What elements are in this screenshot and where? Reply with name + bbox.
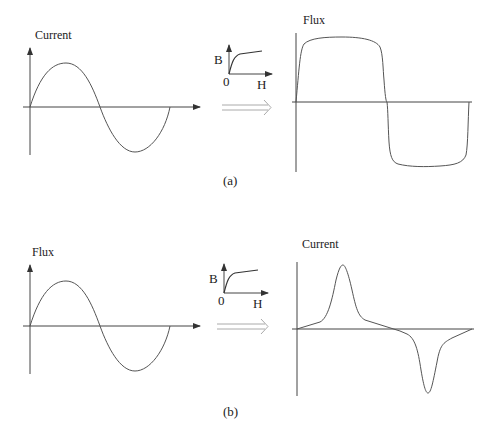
panel-a-output-plot (292, 33, 472, 172)
panel-b-bh-curve (224, 264, 268, 293)
panel-b-output-ylabel: Current (302, 238, 339, 250)
panel-a-bh-curve (229, 45, 272, 74)
panel-a-bh-ylabel: B (214, 54, 223, 66)
panel-b-bh-xlabel: H (253, 298, 262, 310)
panel-a-input-plot (23, 48, 200, 155)
panel-b-output-plot (292, 262, 474, 396)
panel-b-bh-ylabel: B (209, 273, 218, 285)
panel-b-bh-origin: 0 (218, 295, 225, 307)
panel-b-transform-arrow (217, 319, 268, 334)
panel-a-bh-origin: 0 (223, 76, 230, 88)
panel-b-caption: (b) (223, 405, 238, 418)
panel-b-input-ylabel: Flux (32, 246, 54, 258)
bh-saturation-curve (229, 51, 262, 74)
bh-saturation-curve (224, 270, 258, 293)
panel-a-input-ylabel: Current (35, 29, 72, 41)
diagram-canvas (0, 0, 494, 440)
panel-a-caption: (a) (223, 174, 237, 187)
panel-a-transform-arrow (222, 100, 271, 115)
panel-a-output-ylabel: Flux (303, 14, 325, 26)
panel-a-bh-xlabel: H (257, 79, 266, 91)
panel-b-input-plot (23, 265, 200, 374)
